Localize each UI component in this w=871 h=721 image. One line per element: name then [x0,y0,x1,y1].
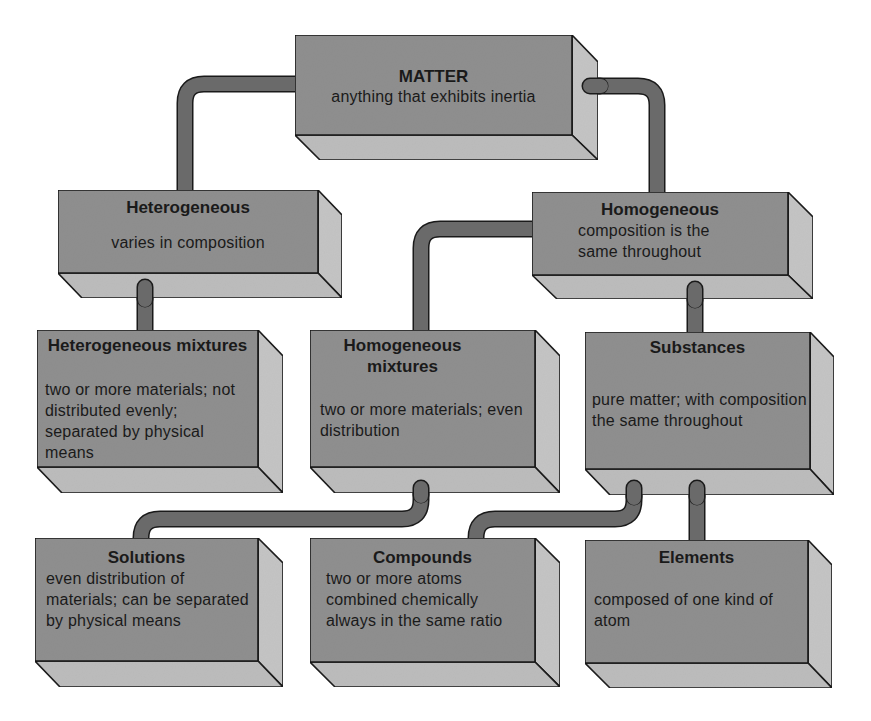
node-title-homogeneous: Homogeneous [532,199,788,220]
node-title-heterogeneous-mixtures: Heterogeneous mixtures [37,335,258,356]
node-description-compounds: two or more atoms combined chemically al… [326,568,531,631]
node-title-elements: Elements [585,547,808,568]
node-description-solutions: even distribution of materials; can be s… [46,568,258,631]
connector-matter-heterogeneous [185,84,297,192]
node-description-heterogeneous: varies in composition [58,232,318,253]
node-description-heterogeneous-mixtures: two or more materials; not distributed e… [45,379,255,463]
node-title-solutions: Solutions [35,547,258,568]
matter-classification-diagram: MATTER anything that exhibits inertia He… [0,0,871,721]
node-description-substances: pure matter; with composition the same t… [592,389,807,431]
connector-homogeneousmixtures-solutions [141,488,421,540]
node-description-homogeneous-mixtures: two or more materials; even distribution [320,399,530,441]
connector-homogeneous-homogeneousmixtures [421,229,534,332]
node-description-matter: anything that exhibits inertia [295,86,572,107]
node-description-elements: composed of one kind of atom [594,589,806,631]
node-title-homogeneous-mixtures: Homogeneous mixtures [320,335,485,377]
node-title-heterogeneous: Heterogeneous [58,197,318,218]
node-description-homogeneous: composition is the same throughout [578,220,753,262]
connector-matter-homogeneous [590,86,657,195]
node-title-substances: Substances [585,337,810,358]
node-title-compounds: Compounds [310,547,535,568]
node-title-matter: MATTER [295,66,572,87]
